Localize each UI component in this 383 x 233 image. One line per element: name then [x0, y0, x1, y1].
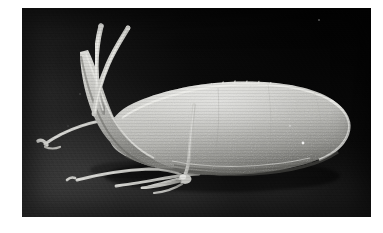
- specimen-layer: [22, 8, 371, 217]
- sem-figure: [0, 0, 383, 233]
- micrograph-plate: [22, 8, 371, 217]
